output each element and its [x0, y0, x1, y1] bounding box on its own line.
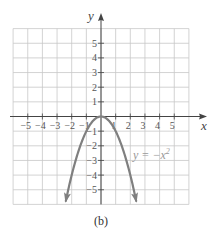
- x-axis-label: x: [200, 118, 207, 133]
- x-tick-label: −4: [35, 120, 46, 131]
- y-tick-label: −3: [86, 155, 97, 166]
- y-tick-label: −5: [86, 184, 97, 195]
- y-tick-label: 1: [92, 96, 97, 107]
- x-tick-label: 2: [126, 120, 131, 131]
- axes: [10, 13, 207, 204]
- x-tick-label: 5: [170, 120, 175, 131]
- y-axis-arrow-icon: [98, 13, 104, 21]
- y-tick-label: 2: [92, 82, 97, 93]
- x-tick-label: −2: [64, 120, 75, 131]
- y-axis-label: y: [86, 8, 94, 23]
- y-tick-label: −2: [86, 140, 97, 151]
- y-tick-label: −4: [86, 170, 97, 181]
- y-tick-label: 5: [92, 38, 97, 49]
- x-tick-label: 4: [155, 120, 160, 131]
- figure-caption: (b): [94, 214, 108, 228]
- equation-annotation: y = −x2: [132, 147, 170, 162]
- x-tick-label: −3: [50, 120, 61, 131]
- y-tick-label: 4: [92, 52, 97, 63]
- x-tick-label: −5: [20, 120, 31, 131]
- x-tick-label: 3: [140, 120, 145, 131]
- chart: −5−4−3−2−11234554321−1−2−3−4−5 x y y = −…: [0, 0, 215, 233]
- y-tick-label: 3: [92, 67, 97, 78]
